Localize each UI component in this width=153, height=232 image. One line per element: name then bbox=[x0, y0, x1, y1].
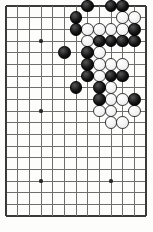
grid-line-vertical bbox=[76, 6, 77, 216]
white-stone[interactable] bbox=[116, 116, 129, 129]
white-stone[interactable] bbox=[116, 58, 129, 71]
black-stone[interactable] bbox=[81, 0, 94, 12]
black-stone[interactable] bbox=[93, 35, 106, 48]
go-board[interactable] bbox=[0, 0, 153, 232]
white-stone[interactable] bbox=[93, 105, 106, 118]
grid-line-vertical bbox=[17, 6, 18, 216]
black-stone[interactable] bbox=[128, 35, 141, 48]
black-stone[interactable] bbox=[128, 93, 141, 106]
grid-line-vertical bbox=[52, 6, 53, 216]
goban-grid bbox=[0, 0, 153, 232]
black-stone[interactable] bbox=[116, 70, 129, 83]
grid-line-vertical bbox=[29, 6, 30, 216]
star-point bbox=[39, 109, 42, 112]
black-stone[interactable] bbox=[70, 23, 83, 36]
grid-line-vertical bbox=[145, 6, 147, 216]
star-point bbox=[39, 179, 42, 182]
white-stone[interactable] bbox=[128, 105, 141, 118]
grid-line-vertical bbox=[64, 6, 65, 216]
black-stone[interactable] bbox=[128, 23, 141, 36]
grid-line-vertical bbox=[5, 6, 7, 216]
white-stone[interactable] bbox=[93, 58, 106, 71]
black-stone[interactable] bbox=[93, 93, 106, 106]
black-stone[interactable] bbox=[58, 46, 71, 59]
star-point bbox=[39, 39, 42, 42]
black-stone[interactable] bbox=[70, 81, 83, 94]
black-stone[interactable] bbox=[81, 70, 94, 83]
star-point bbox=[109, 179, 112, 182]
black-stone[interactable] bbox=[116, 0, 129, 12]
white-stone[interactable] bbox=[93, 23, 106, 36]
black-stone[interactable] bbox=[81, 58, 94, 71]
